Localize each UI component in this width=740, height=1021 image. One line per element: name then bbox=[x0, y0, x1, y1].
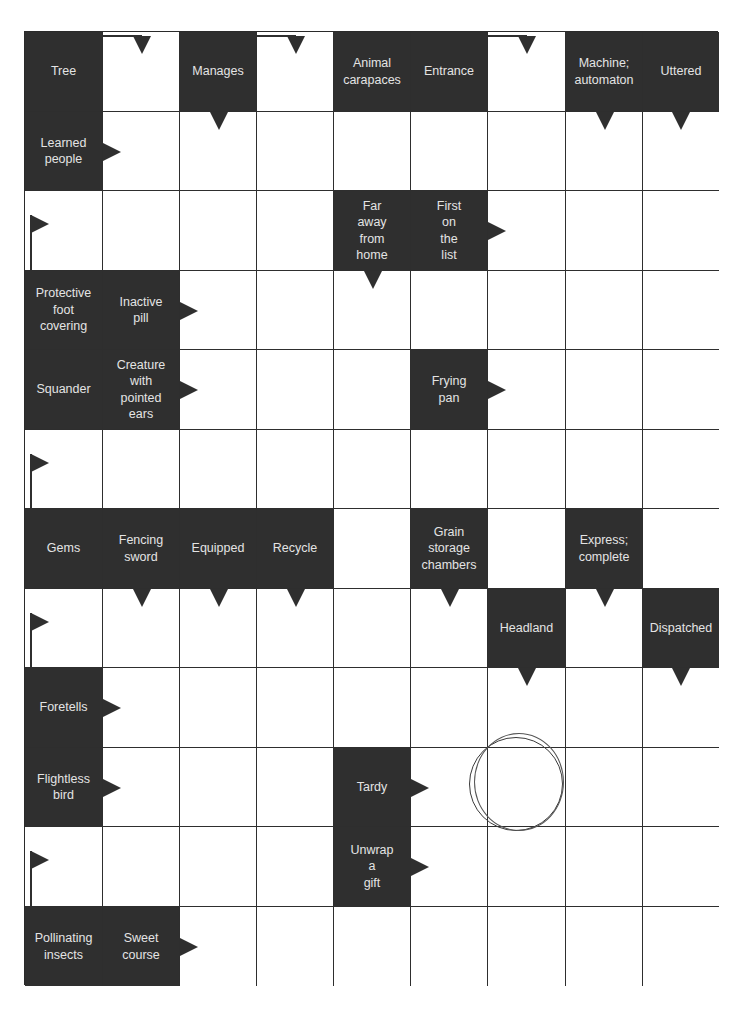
answer-cell[interactable] bbox=[566, 191, 643, 271]
answer-cell[interactable] bbox=[334, 350, 411, 430]
answer-cell[interactable] bbox=[488, 271, 566, 350]
down-arrow-icon bbox=[210, 589, 228, 607]
answer-cell[interactable] bbox=[566, 668, 643, 748]
answer-cell[interactable] bbox=[103, 827, 180, 907]
answer-cell[interactable] bbox=[257, 827, 334, 907]
clue-cell: Machine; automaton bbox=[566, 32, 643, 112]
right-arrow-icon bbox=[411, 858, 429, 876]
answer-cell[interactable] bbox=[488, 509, 566, 589]
clue-text: Squander bbox=[36, 381, 90, 398]
answer-cell[interactable] bbox=[411, 668, 488, 748]
answer-cell[interactable] bbox=[257, 350, 334, 430]
answer-cell[interactable] bbox=[334, 112, 411, 191]
answer-cell[interactable] bbox=[643, 191, 719, 271]
down-arrow-icon bbox=[672, 668, 690, 686]
answer-cell[interactable] bbox=[566, 350, 643, 430]
right-arrow-icon bbox=[31, 215, 49, 233]
clue-cell: Equipped bbox=[180, 509, 257, 589]
answer-cell[interactable] bbox=[566, 907, 643, 986]
answer-cell[interactable] bbox=[257, 112, 334, 191]
answer-cell[interactable] bbox=[334, 907, 411, 986]
answer-cell[interactable] bbox=[488, 827, 566, 907]
clue-text: Unwrap a gift bbox=[350, 842, 393, 892]
answer-cell[interactable] bbox=[334, 509, 411, 589]
clue-text: Gems bbox=[47, 540, 80, 557]
answer-cell[interactable] bbox=[488, 112, 566, 191]
answer-cell[interactable] bbox=[103, 191, 180, 271]
answer-cell[interactable] bbox=[643, 907, 719, 986]
answer-cell[interactable] bbox=[488, 430, 566, 509]
answer-cell[interactable] bbox=[257, 191, 334, 271]
clue-text: Machine; automaton bbox=[574, 55, 633, 88]
clue-text: First on the list bbox=[437, 198, 461, 264]
right-arrow-icon bbox=[488, 222, 506, 240]
answer-cell[interactable] bbox=[180, 430, 257, 509]
clue-text: Equipped bbox=[192, 540, 245, 557]
answer-cell[interactable] bbox=[257, 430, 334, 509]
answer-cell[interactable] bbox=[566, 430, 643, 509]
down-arrow-icon bbox=[596, 589, 614, 607]
answer-cell[interactable] bbox=[334, 430, 411, 509]
answer-cell[interactable] bbox=[566, 271, 643, 350]
answer-cell[interactable] bbox=[643, 350, 719, 430]
answer-cell[interactable] bbox=[488, 748, 566, 827]
clue-text: Headland bbox=[500, 620, 554, 637]
answer-cell[interactable] bbox=[566, 748, 643, 827]
clue-text: Uttered bbox=[661, 63, 702, 80]
answer-cell[interactable] bbox=[566, 827, 643, 907]
down-arrow-icon bbox=[133, 589, 151, 607]
clue-cell: Squander bbox=[25, 350, 103, 430]
answer-cell[interactable] bbox=[180, 668, 257, 748]
clue-text: Recycle bbox=[273, 540, 317, 557]
clue-text: Grain storage chambers bbox=[422, 524, 477, 574]
down-arrow-icon bbox=[441, 589, 459, 607]
clue-text: Creature with pointed ears bbox=[117, 357, 166, 423]
answer-cell[interactable] bbox=[180, 748, 257, 827]
right-arrow-icon bbox=[488, 381, 506, 399]
answer-cell[interactable] bbox=[257, 271, 334, 350]
answer-cell[interactable] bbox=[334, 589, 411, 668]
down-arrow-icon bbox=[518, 36, 536, 54]
right-arrow-icon bbox=[31, 613, 49, 631]
clue-cell: Learned people bbox=[25, 112, 103, 191]
answer-cell[interactable] bbox=[257, 748, 334, 827]
clue-cell: Grain storage chambers bbox=[411, 509, 488, 589]
clue-text: Manages bbox=[192, 63, 243, 80]
answer-cell[interactable] bbox=[488, 907, 566, 986]
clue-text: Sweet course bbox=[122, 930, 160, 963]
answer-cell[interactable] bbox=[411, 430, 488, 509]
clue-text: Flightless bird bbox=[37, 771, 90, 804]
answer-cell[interactable] bbox=[257, 907, 334, 986]
answer-cell[interactable] bbox=[643, 271, 719, 350]
clue-text: Animal carapaces bbox=[343, 55, 401, 88]
clue-cell: Tree bbox=[25, 32, 103, 112]
clue-text: Foretells bbox=[40, 699, 88, 716]
clue-cell: Entrance bbox=[411, 32, 488, 112]
clue-cell: Recycle bbox=[257, 509, 334, 589]
answer-cell[interactable] bbox=[411, 907, 488, 986]
answer-cell[interactable] bbox=[334, 668, 411, 748]
clue-cell: Sweet course bbox=[103, 907, 180, 986]
clue-text: Inactive pill bbox=[119, 294, 162, 327]
down-arrow-icon bbox=[518, 668, 536, 686]
answer-cell[interactable] bbox=[103, 430, 180, 509]
answer-cell[interactable] bbox=[643, 748, 719, 827]
answer-cell[interactable] bbox=[643, 430, 719, 509]
clue-cell: Foretells bbox=[25, 668, 103, 748]
answer-cell[interactable] bbox=[411, 271, 488, 350]
right-arrow-icon bbox=[103, 779, 121, 797]
answer-cell[interactable] bbox=[643, 827, 719, 907]
right-arrow-icon bbox=[411, 779, 429, 797]
answer-cell[interactable] bbox=[643, 509, 719, 589]
clue-text: Entrance bbox=[424, 63, 474, 80]
clue-text: Dispatched bbox=[650, 620, 713, 637]
answer-cell[interactable] bbox=[180, 827, 257, 907]
answer-cell[interactable] bbox=[180, 191, 257, 271]
answer-cell[interactable] bbox=[257, 668, 334, 748]
clue-cell: Headland bbox=[488, 589, 566, 668]
clue-text: Pollinating insects bbox=[35, 930, 93, 963]
clue-cell: Uttered bbox=[643, 32, 719, 112]
clue-cell: Unwrap a gift bbox=[334, 827, 411, 907]
answer-cell[interactable] bbox=[411, 112, 488, 191]
clue-cell: Manages bbox=[180, 32, 257, 112]
